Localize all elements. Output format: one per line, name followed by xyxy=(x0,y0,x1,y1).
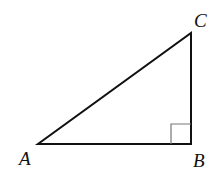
vertex-label-a: A xyxy=(17,148,31,169)
vertex-label-b: B xyxy=(193,150,205,171)
triangle-diagram: A B C xyxy=(0,0,220,180)
vertex-label-c: C xyxy=(194,10,207,31)
triangle-abc xyxy=(38,33,191,144)
right-angle-marker xyxy=(171,124,191,144)
